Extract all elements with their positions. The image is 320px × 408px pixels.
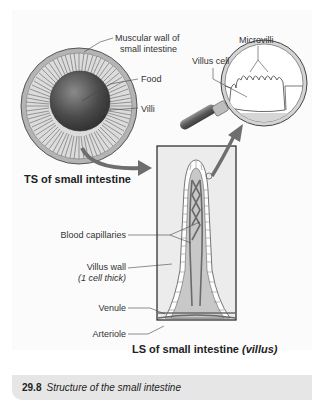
arrow-icon-2 <box>228 124 243 142</box>
label-villus-wall-note: (1 cell thick) <box>30 273 126 284</box>
figure-caption: 29.8 Structure of the small intestine <box>12 375 312 400</box>
ls-title: LS of small intestine (villus) <box>132 343 277 355</box>
label-food: Food <box>141 74 162 85</box>
ls-villus-section <box>128 146 236 334</box>
magnifier <box>178 40 307 133</box>
figure-number: 29.8 <box>22 382 41 393</box>
label-venule: Venule <box>30 303 126 314</box>
label-arteriole: Arteriole <box>30 329 126 340</box>
label-blood-capillaries: Blood capillaries <box>30 230 126 241</box>
ts-title: TS of small intestine <box>24 173 131 185</box>
label-microvilli: Microvilli <box>239 35 274 46</box>
ts-cross-section <box>21 38 138 164</box>
label-villi: Villi <box>141 104 155 115</box>
label-villus-wall: Villus wall <box>30 262 126 273</box>
label-muscular-wall: Muscular wall of small intestine <box>115 33 180 55</box>
label-villus-cell: Villus cell <box>192 56 229 67</box>
figure-caption-text: Structure of the small intestine <box>46 382 181 393</box>
arrow-icon <box>138 160 152 176</box>
